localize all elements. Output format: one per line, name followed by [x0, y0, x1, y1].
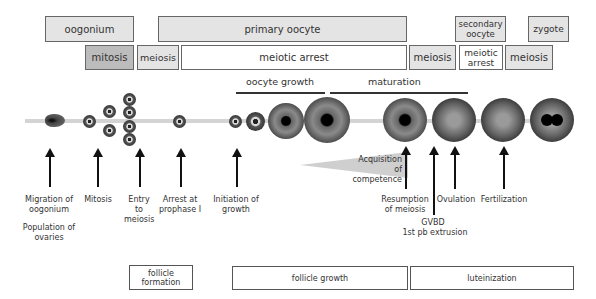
dividing-cell-icon	[123, 106, 136, 119]
event-arrow	[454, 153, 456, 189]
event-arrow	[49, 155, 51, 187]
follicle-growth-label: follicle growth	[292, 274, 348, 283]
stage-secondary-oocyte: secondary oocyte	[455, 16, 506, 42]
event-arrow	[180, 155, 182, 187]
event-arrow	[139, 155, 141, 187]
event-label-fertilization: Fertilization	[480, 195, 528, 205]
grown-oocyte-icon	[304, 97, 350, 143]
phase-maturation-line	[330, 92, 468, 94]
division-meiosis-3: meiosis	[505, 45, 553, 70]
stage-primary-oocyte: primary oocyte	[158, 16, 407, 42]
division-meiosis-1-label: meiosis	[140, 52, 176, 63]
division-mitosis-label: mitosis	[92, 52, 128, 63]
event-label-gvbd: GVBD	[418, 218, 448, 228]
division-meiosis-2: meiosis	[409, 45, 456, 70]
stage-oogonium: oogonium	[45, 16, 134, 42]
follicle-formation-label: follicle formation	[130, 269, 192, 287]
stage-primary-oocyte-label: primary oocyte	[244, 24, 320, 35]
event-label-arrest: Arrest at prophase I	[158, 195, 202, 215]
division-meiosis-3-label: meiosis	[510, 52, 548, 63]
event-label-pb-extrusion: 1st pb extrusion	[400, 228, 470, 238]
event-label-resumption: Resumption of meiosis	[380, 195, 430, 215]
luteinization: luteinization	[410, 266, 574, 290]
pronucleus-icon	[551, 114, 563, 126]
division-mitosis: mitosis	[85, 45, 134, 70]
division-meiosis-2-label: meiosis	[414, 52, 452, 63]
dividing-cell-icon	[123, 93, 136, 106]
event-arrow	[405, 153, 407, 189]
dividing-cell-icon	[123, 120, 136, 133]
growing-oocyte-icon	[268, 103, 304, 139]
event-label-entry-meiosis: Entry to meiosis	[124, 195, 154, 225]
event-label-population: Population of ovaries	[22, 223, 76, 243]
phase-maturation-label: maturation	[368, 76, 421, 87]
division-meiotic-arrest-2-label: meiotic arrest	[460, 48, 502, 68]
mature-oocyte-icon	[383, 98, 427, 142]
event-label-mitosis: Mitosis	[80, 195, 116, 205]
event-label-migration: Migration of oogonium	[22, 195, 76, 215]
event-arrow	[433, 153, 435, 215]
event-arrow	[503, 153, 505, 189]
gvbd-oocyte-icon	[432, 98, 476, 142]
follicle-growth: follicle growth	[232, 266, 408, 290]
mitosis-cell-icon	[83, 115, 96, 128]
division-meiotic-arrest-1-label: meiotic arrest	[259, 52, 328, 63]
stage-zygote-label: zygote	[533, 24, 563, 35]
dividing-cell-icon	[103, 124, 116, 137]
division-meiosis-1: meiosis	[137, 45, 179, 70]
competence-label: Acquisition of competence	[352, 155, 402, 185]
event-label-ovulation: Ovulation	[436, 195, 476, 205]
follicle-formation: follicle formation	[129, 265, 193, 290]
event-label-initiation: Initiation of growth	[212, 195, 260, 215]
phase-oocyte-growth-label: oocyte growth	[246, 76, 314, 87]
dividing-cell-icon	[103, 105, 116, 118]
arrested-cell-icon	[173, 115, 186, 128]
growth-cell-icon	[246, 112, 265, 131]
stage-zygote: zygote	[528, 16, 569, 42]
stage-oogonium-label: oogonium	[65, 24, 115, 35]
event-arrow	[236, 155, 238, 187]
division-meiotic-arrest-1: meiotic arrest	[181, 45, 407, 70]
growth-cell-icon	[229, 115, 242, 128]
ovulated-oocyte-icon	[481, 98, 525, 142]
dividing-cell-icon	[123, 133, 136, 146]
luteinization-label: luteinization	[467, 274, 516, 283]
phase-oocyte-growth-line	[236, 92, 325, 94]
division-meiotic-arrest-2: meiotic arrest	[459, 45, 503, 70]
event-arrow	[97, 155, 99, 187]
stage-secondary-oocyte-label: secondary oocyte	[456, 19, 505, 39]
oogonium-cell-icon	[45, 114, 65, 127]
